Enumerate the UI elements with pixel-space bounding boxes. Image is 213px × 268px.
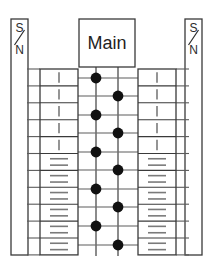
connection-node[interactable] <box>91 110 102 121</box>
left-breaker-column <box>40 69 78 255</box>
connection-node[interactable] <box>113 240 124 251</box>
main-breaker-label: Main <box>87 33 126 53</box>
connection-node[interactable] <box>113 165 124 176</box>
left-rail[interactable]: S N <box>11 19 28 255</box>
connection-node[interactable] <box>113 202 124 213</box>
connection-node[interactable] <box>113 91 124 102</box>
left-neutral-tick-marks <box>27 69 40 255</box>
left-rail-letter-n: N <box>15 43 24 57</box>
right-breaker-column <box>138 69 176 255</box>
connection-node[interactable] <box>91 73 102 84</box>
panel-diagram-canvas: S N S N Main <box>0 0 213 268</box>
right-rail-letter-n: N <box>189 43 198 57</box>
panel-schematic-svg: S N S N Main <box>0 0 213 268</box>
connection-node[interactable] <box>91 221 102 232</box>
connection-node[interactable] <box>91 184 102 195</box>
main-breaker[interactable]: Main <box>79 19 135 67</box>
connection-node[interactable] <box>113 128 124 139</box>
connection-node[interactable] <box>91 147 102 158</box>
row-connector-lines <box>78 78 138 245</box>
